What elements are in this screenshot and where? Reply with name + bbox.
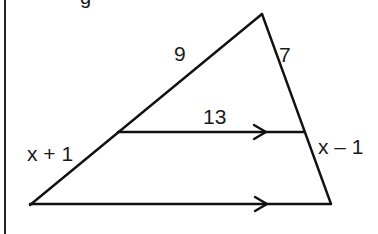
triangle-left-side <box>30 14 262 205</box>
label-lower-left-side: x + 1 <box>27 143 73 164</box>
triangle-svg <box>0 0 378 234</box>
label-parallel-segment: 13 <box>203 106 226 127</box>
triangle-right-side <box>262 14 331 204</box>
label-upper-left-side: 9 <box>174 43 186 64</box>
cut-off-title-text: g <box>80 0 92 9</box>
triangle-diagram: g 9 7 13 x + 1 x – 1 <box>0 0 378 234</box>
label-lower-right-side: x – 1 <box>318 136 364 157</box>
label-upper-right-side: 7 <box>279 44 291 65</box>
frame-left-border <box>4 0 6 234</box>
